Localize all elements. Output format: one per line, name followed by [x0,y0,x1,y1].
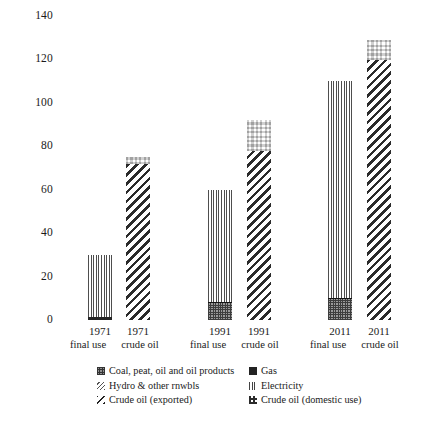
legend-item-coal[interactable]: Coal, peat, oil and oil products [97,366,249,376]
legend-label: Crude oil (exported) [109,395,192,405]
legend-label: Hydro & other rnwbls [109,381,199,391]
legend-item-hydro[interactable]: Hydro & other rnwbls [97,381,249,391]
x-cat-1991-crude-oil: crude oil [232,339,288,350]
segment-crude-oil-exported [126,164,150,320]
coal-swatch-icon [97,367,105,375]
y-tick-60: 60 [41,184,53,196]
hydro-swatch-icon [97,382,105,390]
x-tick-year: 1991 [227,325,291,338]
legend-label: Electricity [261,381,303,391]
segment-crude-oil-exported [367,60,391,321]
y-tick-120: 120 [35,54,53,66]
electricity-swatch-icon [249,382,257,390]
y-tick-20: 20 [41,271,53,283]
legend-row: Hydro & other rnwbls Electricity [97,381,387,391]
x-tick-year: 1971 [106,325,170,338]
bar-1971-final-use[interactable] [88,255,112,320]
segment-electricity [88,255,112,317]
bar-1991-final-use[interactable] [208,190,232,320]
legend-item-crude-oil-domestic[interactable]: Crude oil (domestic use) [249,395,361,405]
bar-1991-crude-oil[interactable] [247,120,271,320]
segment-crude-oil-domestic-use [126,157,150,164]
x-tick-2011-crude-oil: 2011 [347,325,411,338]
segment-crude-oil-domestic-use [247,120,271,150]
x-tick-1991-crude-oil: 1991 [227,325,291,338]
segment-gas [328,298,352,300]
legend-label: Crude oil (domestic use) [261,395,361,405]
segment-electricity [208,190,232,303]
legend-item-crude-oil-exported[interactable]: Crude oil (exported) [97,395,249,405]
y-tick-80: 80 [41,141,53,153]
gas-swatch-icon [249,367,257,375]
y-tick-140: 140 [35,10,53,22]
plot-area: 0 20 40 60 80 100 120 140 [60,8,418,320]
x-tick-1971-crude-oil: 1971 [106,325,170,338]
chart-legend: Coal, peat, oil and oil products Gas Hyd… [97,366,387,410]
y-tick-0: 0 [47,314,53,326]
x-cat-1971-final-use: final use [62,339,114,350]
x-cat-2011-crude-oil: crude oil [352,339,408,350]
legend-label: Gas [261,366,277,376]
segment-gas [208,302,232,304]
legend-label: Coal, peat, oil and oil products [109,366,234,376]
segment-gas [88,317,112,320]
crude-oil-domestic-swatch-icon [249,396,257,404]
y-tick-40: 40 [41,227,53,239]
legend-row: Crude oil (exported) Crude oil (domestic… [97,395,387,405]
bar-2011-final-use[interactable] [328,81,352,320]
segment-coal-peat-oil-and-oil-products [328,298,352,320]
segment-electricity [328,81,352,298]
x-tick-year: 2011 [347,325,411,338]
x-cat-2011-final-use: final use [302,339,354,350]
bar-chart: 0 20 40 60 80 100 120 140 [0,0,425,425]
segment-crude-oil-exported [247,151,271,320]
x-cat-1971-crude-oil: crude oil [112,339,168,350]
bar-2011-crude-oil[interactable] [367,40,391,320]
segment-coal-peat-oil-and-oil-products [208,303,232,320]
legend-item-gas[interactable]: Gas [249,366,277,376]
y-tick-100: 100 [35,97,53,109]
legend-item-electricity[interactable]: Electricity [249,381,303,391]
x-cat-1991-final-use: final use [182,339,234,350]
crude-oil-exported-swatch-icon [97,396,105,404]
bar-1971-crude-oil[interactable] [126,157,150,320]
segment-crude-oil-domestic-use [367,40,391,60]
legend-row: Coal, peat, oil and oil products Gas [97,366,387,376]
